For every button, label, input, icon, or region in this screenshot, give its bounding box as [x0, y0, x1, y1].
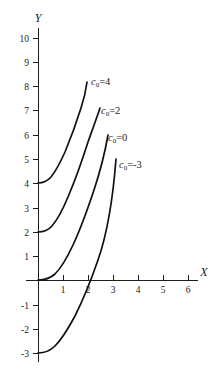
- curve-label-c0-neg3: c0=-3: [119, 160, 142, 171]
- y-tick-label-neg3: -3: [21, 349, 29, 359]
- y-axis-ticks-negative: [33, 305, 38, 353]
- curve-label-c0-2-value: 2: [115, 105, 120, 116]
- curve-label-c0-neg3-sub: 0: [124, 164, 128, 172]
- curve-label-c0-2: c0=2: [101, 106, 120, 117]
- curve-label-c0-0-value: 0: [122, 132, 127, 143]
- y-tick-label-neg2: -2: [21, 325, 29, 335]
- y-tick-label-2: 2: [24, 228, 29, 238]
- y-axis-ticks-positive: [33, 38, 38, 256]
- y-tick-label-8: 8: [24, 82, 29, 92]
- y-tick-label-10: 10: [20, 34, 30, 44]
- curve-label-c0-4-value: 4: [105, 76, 110, 87]
- x-tick-label-5: 5: [161, 285, 166, 295]
- x-tick-label-1: 1: [61, 285, 66, 295]
- curve-label-c0-neg3-value: -3: [133, 159, 142, 170]
- x-axis-ticks: [63, 275, 188, 280]
- y-tick-label-7: 7: [24, 106, 29, 116]
- y-tick-label-neg1: -1: [21, 301, 29, 311]
- y-tick-label-6: 6: [24, 131, 29, 141]
- y-tick-label-5: 5: [24, 155, 29, 165]
- x-axis-label: X: [199, 265, 208, 279]
- curve-label-c0-4-sub: 0: [96, 81, 100, 89]
- curve-c0-0: [38, 135, 108, 280]
- curve-label-c0-4-var: c: [91, 76, 96, 87]
- curve-c0-2: [38, 108, 100, 232]
- curve-label-c0-4: c0=4: [91, 77, 110, 88]
- curve-label-c0-0-sub: 0: [113, 137, 117, 145]
- x-tick-label-4: 4: [136, 285, 141, 295]
- y-tick-label-1: 1: [24, 252, 29, 262]
- curve-label-c0-2-sub: 0: [106, 110, 110, 118]
- curve-label-c0-0-var: c: [108, 132, 113, 143]
- curve-label-c0-neg3-var: c: [119, 159, 124, 170]
- curve-c0-neg3: [38, 159, 116, 353]
- y-tick-label-9: 9: [24, 58, 29, 68]
- plot-canvas: 10 9 8 7 6 5 4 3 2 1 -1 -2 -3 1 2 3 4 5 …: [0, 0, 215, 373]
- solution-curves-figure: 10 9 8 7 6 5 4 3 2 1 -1 -2 -3 1 2 3 4 5 …: [0, 0, 215, 373]
- y-axis-label: Y: [35, 11, 43, 25]
- y-tick-label-4: 4: [24, 179, 29, 189]
- y-tick-label-3: 3: [24, 204, 29, 214]
- curve-label-c0-0: c0=0: [108, 133, 127, 144]
- x-tick-label-3: 3: [111, 285, 116, 295]
- x-tick-label-6: 6: [186, 285, 191, 295]
- curve-label-c0-2-var: c: [101, 105, 106, 116]
